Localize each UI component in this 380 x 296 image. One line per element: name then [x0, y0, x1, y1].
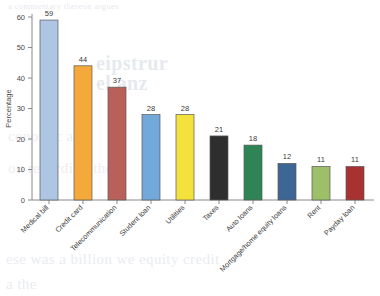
y-tick-label: 40	[17, 74, 25, 83]
bar	[74, 66, 92, 200]
bar-value-label: 11	[317, 155, 325, 164]
x-category-label: Auto loans	[224, 203, 255, 234]
y-tick-label: 50	[17, 43, 25, 52]
y-axis-title: Percentage	[4, 89, 13, 127]
x-category-label: Rent	[305, 203, 322, 220]
bar-value-label: 21	[215, 125, 223, 134]
x-category-label: Mortgage/home equity loans	[218, 203, 289, 274]
bar	[244, 145, 262, 200]
y-tick-label: 0	[21, 196, 25, 205]
x-category-label: Student loan	[118, 203, 153, 238]
x-axis	[32, 200, 374, 204]
y-axis-title-group: Percentage	[4, 89, 13, 127]
x-category-label: Medical bill	[19, 203, 51, 235]
bar	[278, 163, 296, 200]
y-tick-label: 20	[17, 135, 25, 144]
category-labels-group: Medical billCredit cardTelecommunication…	[19, 203, 357, 274]
x-category-label: Utilities	[164, 203, 187, 226]
x-category-label: Payday loan	[322, 203, 356, 237]
y-tick-label: 10	[17, 165, 25, 174]
bar-value-label: 11	[351, 155, 359, 164]
chart-canvas: 0102030405060 59443728282118121111 Medic…	[0, 0, 380, 296]
bar	[142, 115, 160, 200]
bar-value-label: 28	[181, 104, 189, 113]
y-tick-label: 30	[17, 104, 25, 113]
bar-value-label: 12	[283, 152, 291, 161]
bar-chart: 0102030405060 59443728282118121111 Medic…	[0, 0, 380, 296]
x-category-label: Credit card	[53, 203, 84, 234]
bar	[346, 166, 364, 200]
bar-value-label: 44	[79, 55, 87, 64]
bar	[312, 166, 330, 200]
bar-value-label: 59	[45, 9, 53, 18]
bar	[176, 115, 194, 200]
y-axis: 0102030405060	[17, 13, 32, 205]
bar-value-label: 18	[249, 134, 257, 143]
bar-value-label: 37	[113, 76, 121, 85]
bar-value-label: 28	[147, 104, 155, 113]
bars-group	[40, 20, 364, 200]
bar	[210, 136, 228, 200]
y-tick-label: 60	[17, 13, 25, 22]
bar	[108, 87, 126, 200]
x-category-label: Taxes	[201, 203, 221, 223]
bar	[40, 20, 58, 200]
